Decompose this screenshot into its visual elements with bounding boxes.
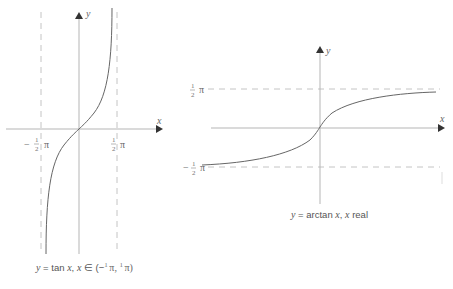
tick-label-neg-half-pi: − 1 2 π bbox=[183, 160, 205, 177]
tick-label-neg-half-pi: − 1 2 π bbox=[24, 136, 49, 153]
x-axis-label: x bbox=[156, 115, 162, 126]
y-axis-arrow-icon bbox=[316, 46, 324, 53]
svg-text:2: 2 bbox=[192, 169, 196, 177]
svg-text:−: − bbox=[24, 139, 30, 150]
arctan-graph: y x 1 2 π − 1 2 π y = arctan x, x real bbox=[183, 45, 445, 220]
svg-text:1: 1 bbox=[191, 82, 195, 90]
y-axis-label: y bbox=[85, 8, 91, 19]
tan-caption: y = tan x, x ∈ (−1 π, 1 π) bbox=[35, 261, 133, 274]
x-axis-arrow-icon bbox=[156, 125, 163, 133]
function-graphs: y x − 1 2 π 1 2 π y = tan x, x ∈ (−1 π, … bbox=[0, 0, 453, 289]
svg-text:1: 1 bbox=[112, 136, 116, 144]
x-axis-label: x bbox=[439, 113, 445, 124]
svg-text:1: 1 bbox=[35, 136, 39, 144]
svg-text:π: π bbox=[199, 84, 204, 95]
svg-text:2: 2 bbox=[191, 91, 195, 99]
svg-text:−: − bbox=[183, 162, 189, 173]
y-axis-label: y bbox=[325, 45, 331, 56]
svg-text:π: π bbox=[120, 139, 125, 150]
tick-label-half-pi: 1 2 π bbox=[111, 136, 125, 153]
svg-text:π: π bbox=[200, 162, 205, 173]
tick-label-half-pi: 1 2 π bbox=[190, 82, 204, 99]
svg-text:π: π bbox=[44, 139, 49, 150]
svg-text:1: 1 bbox=[192, 160, 196, 168]
x-axis-arrow-icon bbox=[438, 124, 445, 132]
svg-text:2: 2 bbox=[35, 145, 39, 153]
svg-text:2: 2 bbox=[112, 145, 116, 153]
tan-graph: y x − 1 2 π 1 2 π y = tan x, x ∈ (−1 π, … bbox=[6, 8, 163, 274]
y-axis-arrow-icon bbox=[75, 12, 83, 19]
arctan-caption: y = arctan x, x real bbox=[290, 209, 368, 220]
